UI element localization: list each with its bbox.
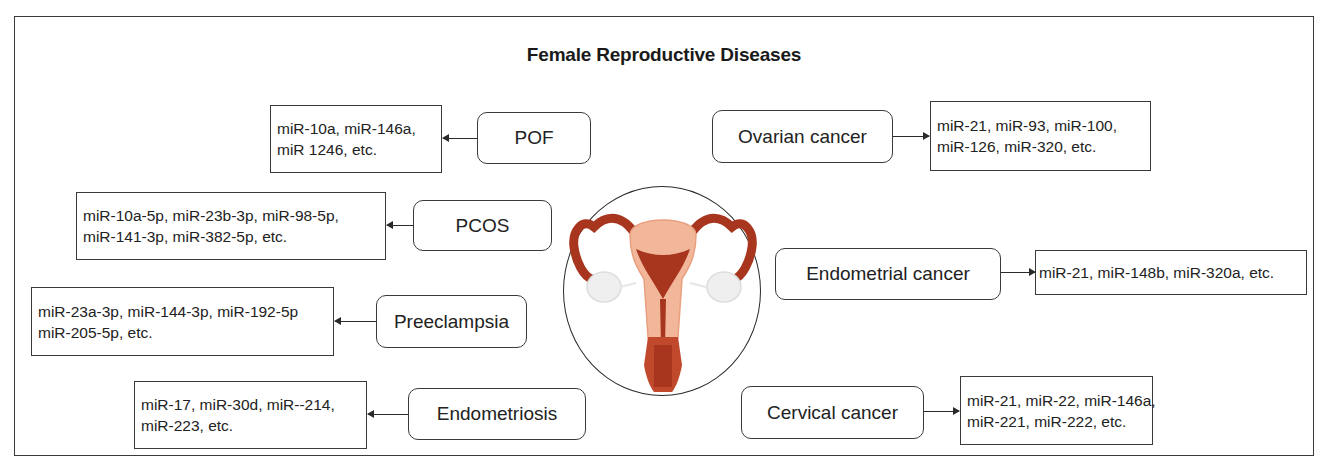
disease-node-preeclampsia: Preeclampsia xyxy=(376,295,527,348)
mirna-box-endometrial-cancer: miR-21, miR-148b, miR-320a, etc. xyxy=(1035,250,1307,295)
mirna-line: miR-21, miR-22, miR-146a, xyxy=(967,390,1152,411)
mirna-box-endometriosis: miR-17, miR-30d, miR--214, miR-223, etc. xyxy=(134,381,367,449)
disease-node-endometrial-cancer: Endometrial cancer xyxy=(775,248,1001,300)
mirna-line: miR-205-5p, etc. xyxy=(38,322,333,343)
mirna-line: miR-10a-5p, miR-23b-3p, miR-98-5p, xyxy=(83,205,385,226)
arrow-pof xyxy=(443,138,477,139)
mirna-box-pcos: miR-10a-5p, miR-23b-3p, miR-98-5p, miR-1… xyxy=(76,192,386,260)
disease-node-ovarian-cancer: Ovarian cancer xyxy=(712,110,893,163)
arrow-ovarian-cancer xyxy=(893,136,929,137)
disease-node-pcos: PCOS xyxy=(413,200,552,251)
center-circle xyxy=(563,186,761,396)
disease-node-cervical-cancer: Cervical cancer xyxy=(741,386,924,439)
mirna-box-ovarian-cancer: miR-21, miR-93, miR-100, miR-126, miR-32… xyxy=(930,101,1151,171)
disease-node-pof: POF xyxy=(477,112,591,164)
mirna-box-preeclampsia: miR-23a-3p, miR-144-3p, miR-192-5p miR-2… xyxy=(31,287,334,356)
arrow-endometriosis xyxy=(368,414,408,415)
arrow-preeclampsia xyxy=(335,321,376,322)
mirna-line: miR-221, miR-222, etc. xyxy=(967,411,1152,432)
arrow-pcos xyxy=(387,225,413,226)
mirna-line: miR-17, miR-30d, miR--214, xyxy=(141,394,366,415)
mirna-line: miR 1246, etc. xyxy=(277,139,441,160)
mirna-line: miR-23a-3p, miR-144-3p, miR-192-5p xyxy=(38,301,333,322)
arrow-endometrial-cancer xyxy=(1001,272,1035,273)
mirna-line: miR-141-3p, miR-382-5p, etc. xyxy=(83,226,385,247)
arrow-cervical-cancer xyxy=(924,411,959,412)
disease-node-endometriosis: Endometriosis xyxy=(408,388,586,440)
mirna-box-pof: miR-10a, miR-146a, miR 1246, etc. xyxy=(270,105,442,173)
uterus-icon xyxy=(564,187,762,397)
mirna-line: miR-10a, miR-146a, xyxy=(277,118,441,139)
diagram-title: Female Reproductive Diseases xyxy=(0,44,1328,66)
mirna-line: miR-21, miR-93, miR-100, xyxy=(937,115,1150,136)
mirna-line: miR-223, etc. xyxy=(141,415,366,436)
mirna-box-cervical-cancer: miR-21, miR-22, miR-146a, miR-221, miR-2… xyxy=(960,376,1153,445)
mirna-line: miR-126, miR-320, etc. xyxy=(937,136,1150,157)
mirna-line: miR-21, miR-148b, miR-320a, etc. xyxy=(1039,262,1306,283)
